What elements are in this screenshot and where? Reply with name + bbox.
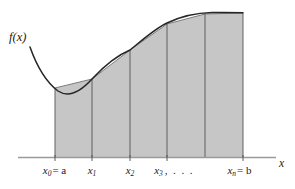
trapezoidal-sum-figure: f(x) x0= a x1 x2 x3, . . . xn= b x (0, 0, 295, 189)
tick-label-x3-ellipsis: , . . . (163, 164, 194, 176)
tick-label-xn-equals: = b (236, 164, 252, 176)
function-label-text: f(x) (9, 30, 26, 44)
tick-label-x0-equals: = a (51, 164, 67, 176)
tick-label-xn: xn= b (227, 165, 252, 178)
tick-label-x3: x3, . . . (154, 165, 194, 178)
tick-label-x0: x0= a (43, 165, 67, 178)
tick-label-x2: x2 (126, 165, 135, 178)
tick-label-x2-sub: 2 (131, 169, 135, 178)
tick-label-x1-sub: 1 (93, 169, 97, 178)
function-label: f(x) (9, 31, 26, 44)
x-axis-label-text: x (279, 157, 284, 169)
x-axis-label: x (279, 158, 284, 170)
figure-canvas (0, 0, 295, 189)
tick-label-x1: x1 (88, 165, 97, 178)
